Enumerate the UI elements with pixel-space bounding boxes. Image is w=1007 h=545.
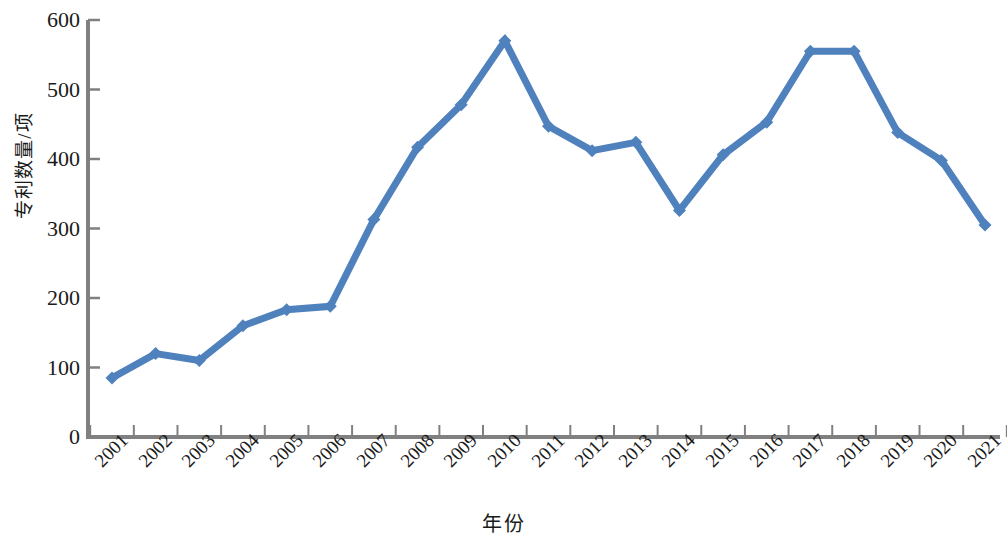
patent-count-line-chart: 专利数量/项 0100200300400500600 2001200220032… (0, 0, 1007, 545)
x-axis-tick-label: 2019 (877, 430, 917, 470)
x-axis-tick-label: 2016 (746, 430, 786, 470)
x-axis-tick-label: 2018 (833, 430, 873, 470)
x-axis-tick-label: 2013 (615, 430, 655, 470)
x-axis-tick-label: 2012 (571, 430, 611, 470)
x-axis-tick-label: 2008 (397, 430, 437, 470)
x-axis-tick-label: 2003 (178, 430, 218, 470)
x-axis-tick-label: 2001 (91, 430, 131, 470)
x-axis-tick-label: 2020 (920, 430, 960, 470)
x-axis-tick-label: 2015 (702, 430, 742, 470)
x-axis-tick-label: 2010 (484, 430, 524, 470)
x-axis-tick-label-group: 2001200220032004200520062007200820092010… (0, 0, 1007, 545)
x-axis-tick-label: 2011 (528, 431, 568, 471)
x-axis-tick-label: 2006 (309, 430, 349, 470)
x-axis-tick-label: 2007 (353, 430, 393, 470)
x-axis-tick-label: 2021 (964, 430, 1004, 470)
x-axis-tick-label: 2002 (135, 430, 175, 470)
x-axis-tick-label: 2014 (658, 430, 698, 470)
x-axis-tick-label: 2009 (440, 430, 480, 470)
x-axis-tick-label: 2017 (789, 430, 829, 470)
x-axis-tick-label: 2004 (222, 430, 262, 470)
x-axis-title: 年份 (0, 508, 1007, 537)
x-axis-tick-label: 2005 (266, 430, 306, 470)
